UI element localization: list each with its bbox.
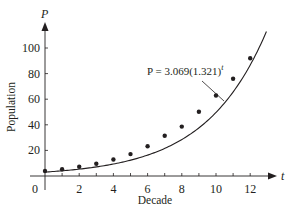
x-tick-label: 10 (210, 182, 222, 196)
data-point (231, 77, 235, 81)
origin-label: 0 (32, 182, 38, 196)
y-tick-label: 40 (28, 118, 40, 132)
data-point (163, 134, 167, 138)
data-point (77, 165, 81, 169)
equation-annotation: P = 3.069(1.321)t (147, 63, 224, 101)
y-tick-label: 20 (28, 143, 40, 157)
y-ticks: 20406080100 (22, 41, 48, 157)
y-tick-label: 100 (22, 41, 40, 55)
x-axis-arrow-icon (268, 173, 277, 180)
y-axis-arrow-icon (42, 22, 49, 31)
model-curve (45, 31, 266, 172)
y-axis-variable-label: P (40, 7, 49, 21)
data-point (94, 162, 98, 166)
data-point (145, 144, 149, 148)
data-point (180, 124, 184, 128)
equation-leader-line (202, 81, 224, 101)
x-tick-label: 8 (179, 182, 185, 196)
x-axis-variable-label: t (281, 169, 285, 183)
data-point (43, 169, 47, 173)
data-point (197, 110, 201, 114)
data-point (128, 152, 132, 156)
chart-canvas: 24681012 20406080100 P t 0 Decade Popula… (0, 0, 289, 209)
y-axis-title: Population (5, 82, 18, 132)
x-tick-label: 4 (110, 182, 116, 196)
y-tick-label: 80 (28, 67, 40, 81)
equation-exponent: t (221, 63, 224, 72)
data-point (60, 167, 64, 171)
x-tick-label: 2 (76, 182, 82, 196)
y-tick-label: 60 (28, 92, 40, 106)
data-point (248, 56, 252, 60)
axes (30, 22, 277, 190)
population-chart: 24681012 20406080100 P t 0 Decade Popula… (0, 0, 289, 209)
x-tick-label: 12 (244, 182, 256, 196)
equation-main: P = 3.069(1.321) (147, 65, 222, 78)
equation-label: P = 3.069(1.321)t (147, 63, 224, 78)
x-axis-title: Decade (138, 194, 172, 206)
data-point (111, 157, 115, 161)
